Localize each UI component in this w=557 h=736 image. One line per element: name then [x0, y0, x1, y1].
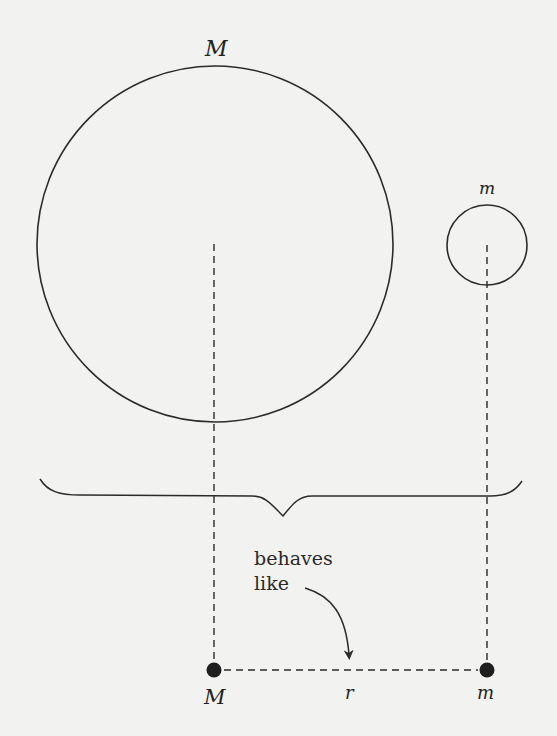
- point-mass-m-label: m: [477, 682, 494, 703]
- grouping-brace: [40, 479, 522, 516]
- diagram-canvas: M m behaves like M r m: [0, 0, 557, 736]
- caption-like: like: [254, 571, 289, 595]
- large-mass-label: M: [205, 36, 228, 61]
- diagram-graphics: [0, 0, 557, 736]
- small-mass-label: m: [479, 178, 495, 198]
- caption-behaves: behaves: [254, 546, 333, 570]
- separation-r-label: r: [345, 682, 354, 703]
- point-mass-M-label: M: [204, 685, 226, 709]
- point-mass-M: [207, 663, 222, 678]
- large-mass-sphere: [37, 66, 393, 422]
- behaves-like-arrow: [305, 588, 349, 655]
- point-mass-m: [480, 663, 495, 678]
